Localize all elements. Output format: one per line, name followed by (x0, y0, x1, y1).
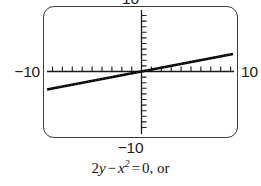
caption-tail: , or (150, 160, 170, 176)
caption-equals: = (130, 160, 142, 176)
window-label-xmin: −10 (0, 63, 40, 81)
window-label-ymax: 10 (0, 0, 261, 8)
caption-variable-y: y (99, 160, 106, 176)
window-label-ymin: −10 (0, 139, 261, 157)
calculator-plot (43, 6, 238, 138)
caption-operator: − (106, 160, 118, 176)
caption-coefficient: 2 (91, 160, 99, 176)
window-label-xmax: 10 (241, 63, 258, 81)
equation-caption: 2y−x2=0, or (0, 160, 261, 177)
caption-exponent: 2 (125, 158, 130, 169)
graphing-calculator-figure: 10 −10 −10 10 2y−x2=0, or (0, 0, 261, 186)
caption-rhs: 0 (142, 160, 150, 176)
caption-variable-x: x (118, 160, 125, 176)
